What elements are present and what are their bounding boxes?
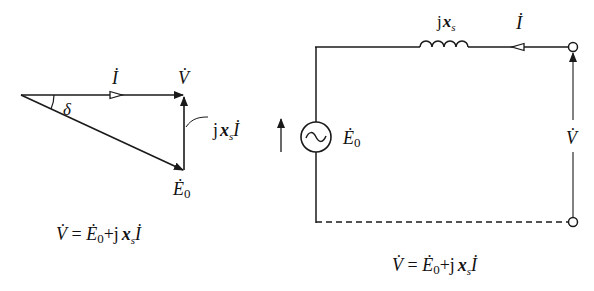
current-arrow-icon [110,92,122,99]
circuit-diagram: jxs İ Ė0 V̇ V̇ = Ė0+jxsİ [281,12,579,277]
circuit-equation: V̇ = Ė0+jxsİ [392,254,478,277]
terminal-voltage-label: V̇ [566,127,579,148]
inductor [420,41,468,47]
terminal-top [569,43,578,52]
emf-label: Ė0 [342,128,361,150]
current-label: İ [111,68,119,88]
emf-phasor [21,95,183,170]
phasor-diagram: İ V̇ δ jxsİ Ė0 V̇ = Ė0+jxsİ [21,67,240,246]
current-arrow-icon [512,44,524,51]
voltage-label: V̇ [178,67,191,88]
terminal-bottom [569,218,578,227]
phasor-equation: V̇ = Ė0+jxsİ [56,223,142,246]
sine-wave-icon [306,133,326,142]
leader-line [186,117,208,127]
reactance-drop-label: jxsİ [212,120,240,142]
emf-label: Ė0 [172,179,191,201]
delta-label: δ [63,100,72,119]
diagram-canvas: İ V̇ δ jxsİ Ė0 V̇ = Ė0+jxsİ [0,0,594,291]
current-label: İ [515,12,524,33]
delta-angle-arc [51,95,54,109]
inductor-label: jxs [436,12,456,33]
